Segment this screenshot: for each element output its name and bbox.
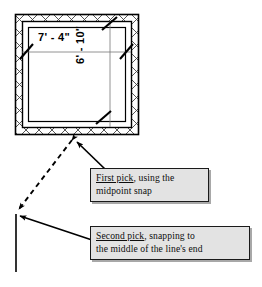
- callout-first-pick: First pick, using the midpoint snap: [90, 168, 209, 202]
- callout-first-rest: , using the: [134, 172, 175, 183]
- leader-second-pick: [20, 216, 92, 240]
- callout-second-line-2: the middle of the line's end: [96, 243, 244, 256]
- dashed-measurement-line: [19, 140, 72, 209]
- callout-first-lead: First pick: [96, 172, 134, 183]
- leader-first-pick: [77, 142, 106, 170]
- callout-second-lead: Second pick: [96, 230, 144, 241]
- callout-second-pick: Second pick, snapping to the middle of t…: [90, 226, 250, 260]
- dimension-label-horizontal: 7' - 4": [38, 31, 70, 43]
- callout-first-line-2: midpoint snap: [96, 185, 203, 198]
- drawing-figure: 7' - 4" 6' - 10" First pick, using the m…: [0, 0, 262, 287]
- callout-second-rest: , snapping to: [144, 230, 195, 241]
- callout-second-line-1: Second pick, snapping to: [96, 230, 244, 243]
- dimension-label-vertical: 6' - 10": [74, 26, 86, 64]
- callout-first-line-1: First pick, using the: [96, 172, 203, 185]
